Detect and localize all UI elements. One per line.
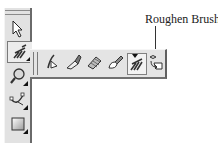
pick-tool-button[interactable] — [7, 18, 29, 40]
flyout-indicator-icon — [23, 129, 28, 134]
shape-tool-button[interactable] — [43, 53, 63, 75]
shape-edit-tool-button[interactable] — [7, 41, 32, 63]
flyout-indicator-icon — [23, 81, 28, 86]
roughen-brush-callout-label: Roughen Brush — [145, 12, 218, 27]
knife-tool-button[interactable] — [64, 53, 84, 75]
shape-node-icon — [45, 53, 61, 75]
arrow-pointer-icon — [10, 20, 26, 38]
toolbox — [4, 8, 32, 143]
free-transform-icon — [147, 53, 165, 75]
flyout-grip[interactable] — [33, 52, 38, 75]
eraser-tool-button[interactable] — [85, 53, 105, 75]
knife-icon — [65, 53, 83, 75]
free-transform-tool-button[interactable] — [146, 53, 166, 75]
roughen-brush-tool-button[interactable] — [127, 53, 147, 75]
rectangle-tool-button[interactable] — [7, 113, 29, 135]
shape-edit-flyout-toolbar — [30, 49, 167, 79]
toolbox-grip[interactable] — [5, 10, 30, 15]
eraser-icon — [86, 53, 104, 75]
flyout-indicator-icon — [23, 105, 28, 110]
smudge-brush-tool-button[interactable] — [106, 53, 126, 75]
zoom-tool-button[interactable] — [7, 65, 29, 87]
smudge-brush-icon — [107, 53, 125, 75]
curve-tool-button[interactable] — [7, 89, 29, 111]
roughen-brush-icon — [128, 52, 146, 76]
